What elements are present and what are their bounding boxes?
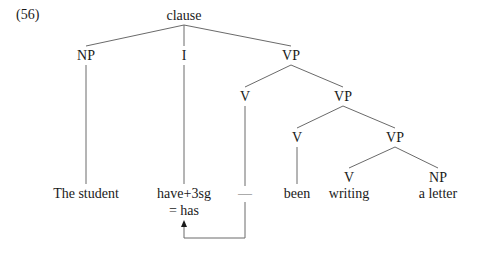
tree-branches <box>0 0 481 255</box>
node-v-2: V <box>292 130 302 146</box>
leaf-trace: — <box>238 186 252 202</box>
node-clause: clause <box>167 8 202 24</box>
branch-vp3-v <box>349 147 395 168</box>
node-np-subject: NP <box>77 48 95 64</box>
leaf-writing: writing <box>329 186 369 202</box>
node-i: I <box>182 48 187 64</box>
leaf-been: been <box>284 186 310 202</box>
leaf-infl-result: = has <box>169 203 199 219</box>
branch-clause-np <box>86 25 184 46</box>
branch-vp1-v <box>245 65 291 87</box>
arrowhead-icon <box>181 220 187 227</box>
branch-clause-vp <box>184 25 291 46</box>
node-v-3: V <box>344 170 354 186</box>
branch-vp2-vp <box>343 106 395 128</box>
node-vp-3: VP <box>386 130 404 146</box>
branch-vp1-vp <box>291 65 343 87</box>
branch-vp2-v <box>297 106 343 128</box>
leaf-object: a letter <box>419 186 457 202</box>
leaf-infl: have+3sg <box>157 186 211 202</box>
branch-vp3-np <box>395 147 438 168</box>
leaf-subject: The student <box>53 186 119 202</box>
node-vp-1: VP <box>282 48 300 64</box>
node-vp-2: VP <box>334 89 352 105</box>
node-v-1: V <box>240 89 250 105</box>
node-np-object: NP <box>429 170 447 186</box>
